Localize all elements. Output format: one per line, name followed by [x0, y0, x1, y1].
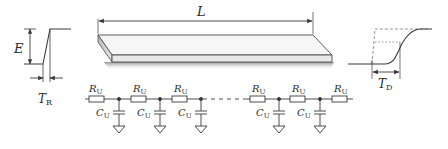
delay-label: TD — [378, 77, 392, 92]
svg-text:RU: RU — [88, 83, 103, 96]
wire-bar: L — [98, 4, 334, 70]
capacitor-1: CU — [96, 97, 125, 133]
resistor-4: RU — [250, 83, 266, 102]
svg-text:RU: RU — [333, 83, 348, 96]
svg-text:RU: RU — [132, 83, 147, 96]
capacitor-2: CU — [137, 97, 166, 133]
svg-text:RU: RU — [251, 83, 266, 96]
svg-text:CU: CU — [137, 107, 151, 120]
output-waveform: TD — [348, 29, 432, 92]
diagram-canvas: E TR L TD — [0, 0, 448, 149]
svg-text:RU: RU — [173, 83, 188, 96]
svg-text:CU: CU — [96, 107, 110, 120]
resistor-3: RU — [172, 83, 188, 102]
capacitor-3: CU — [178, 97, 207, 133]
svg-text:CU: CU — [297, 107, 311, 120]
resistor-5: RU — [290, 83, 306, 102]
resistor-6: RU — [332, 83, 348, 102]
rise-time-label: TR — [38, 92, 53, 107]
svg-text:RU: RU — [291, 83, 306, 96]
svg-text:CU: CU — [256, 107, 270, 120]
capacitor-5: CU — [297, 97, 326, 133]
resistor-2: RU — [131, 83, 147, 102]
capacitor-4: CU — [256, 97, 285, 133]
amplitude-label: E — [13, 41, 24, 56]
input-waveform: E TR — [13, 29, 71, 107]
length-label: L — [196, 4, 206, 19]
resistor-1: RU — [88, 83, 104, 102]
svg-text:CU: CU — [178, 107, 192, 120]
